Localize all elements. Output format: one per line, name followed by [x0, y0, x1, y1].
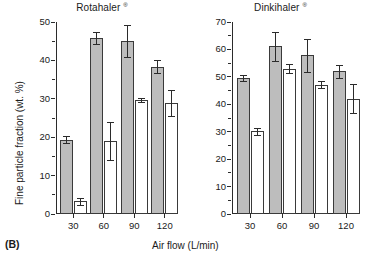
y-tick-label: 20	[39, 131, 50, 142]
y-tick-mark	[51, 137, 55, 138]
error-bar-cap-lower	[254, 135, 261, 136]
error-bar-cap-upper	[304, 39, 311, 40]
error-bar-stem	[127, 25, 128, 57]
y-minor-tick-mark	[228, 200, 231, 201]
error-bar-cap-upper	[240, 75, 247, 76]
x-tick-mark	[314, 214, 315, 218]
bar-rotahaler-90-filled	[121, 41, 134, 214]
bar-rotahaler-60-filled	[90, 38, 103, 214]
error-bar-cap-upper	[286, 64, 293, 65]
y-tick-mark	[227, 214, 231, 215]
bar-rotahaler-90-open	[135, 100, 148, 214]
bar-dinkihaler-90-filled	[301, 55, 314, 214]
y-tick-label: 0	[45, 208, 50, 219]
bar-dinkihaler-30-open	[251, 131, 264, 214]
error-bar-cap-lower	[286, 73, 293, 74]
error-bar-cap-upper	[93, 32, 100, 33]
bar-dinkihaler-90-open	[315, 85, 328, 214]
y-tick-label: 0	[221, 208, 226, 219]
y-axis-line	[56, 22, 57, 214]
error-bar-cap-lower	[240, 81, 247, 82]
error-bar-stem	[339, 65, 340, 78]
error-bar-stem	[110, 122, 111, 160]
panel-title-text: Rotahaler	[76, 2, 123, 13]
y-tick-mark	[227, 22, 231, 23]
y-axis-line	[232, 22, 233, 214]
x-tick-label: 120	[157, 220, 173, 231]
x-tick-label: 60	[98, 220, 109, 231]
error-bar-stem	[157, 60, 158, 74]
error-bar-stem	[275, 32, 276, 61]
bar-rotahaler-120-open	[165, 103, 178, 214]
y-minor-tick-mark	[52, 118, 55, 119]
plot-area-rotahaler: 01020304050306090120	[56, 22, 178, 214]
y-tick-label: 50	[215, 71, 226, 82]
y-minor-tick-mark	[52, 194, 55, 195]
y-tick-mark	[51, 175, 55, 176]
x-tick-mark	[346, 214, 347, 218]
error-bar-cap-lower	[77, 205, 84, 206]
x-tick-label: 30	[68, 220, 79, 231]
y-minor-tick-mark	[228, 145, 231, 146]
y-tick-mark	[51, 22, 55, 23]
plot-area-dinkihaler: 010203040506070306090120	[232, 22, 360, 214]
panel-title-dinkihaler: Dinkihaler ®	[196, 2, 365, 13]
x-tick-mark	[103, 214, 104, 218]
x-tick-label: 30	[245, 220, 256, 231]
y-tick-mark	[227, 104, 231, 105]
error-bar-cap-lower	[168, 116, 175, 117]
y-minor-tick-mark	[228, 118, 231, 119]
bar-dinkihaler-60-filled	[269, 46, 282, 214]
error-bar-cap-lower	[93, 44, 100, 45]
error-bar-cap-upper	[138, 98, 145, 99]
x-tick-label: 60	[277, 220, 288, 231]
error-bar-cap-lower	[124, 57, 131, 58]
chart-panel-dinkihaler: Dinkihaler ®010203040506070306090120	[196, 0, 365, 259]
bar-rotahaler-120-filled	[151, 67, 164, 214]
y-minor-tick-mark	[228, 172, 231, 173]
panel-title-text: Dinkihaler	[254, 2, 302, 13]
y-tick-mark	[227, 76, 231, 77]
y-tick-mark	[227, 49, 231, 50]
x-tick-mark	[134, 214, 135, 218]
y-tick-label: 40	[39, 54, 50, 65]
registered-trademark-icon: ®	[302, 2, 307, 8]
bar-dinkihaler-30-filled	[237, 78, 250, 214]
y-tick-label: 40	[215, 98, 226, 109]
y-tick-mark	[51, 214, 55, 215]
error-bar-cap-upper	[77, 198, 84, 199]
y-minor-tick-mark	[228, 35, 231, 36]
y-tick-label: 30	[39, 93, 50, 104]
y-tick-label: 10	[39, 170, 50, 181]
error-bar-cap-upper	[336, 65, 343, 66]
y-tick-label: 10	[215, 181, 226, 192]
error-bar-cap-lower	[154, 73, 161, 74]
x-tick-mark	[282, 214, 283, 218]
y-minor-tick-mark	[228, 90, 231, 91]
error-bar-cap-upper	[350, 84, 357, 85]
error-bar-cap-upper	[318, 81, 325, 82]
error-bar-stem	[307, 39, 308, 72]
x-tick-mark	[250, 214, 251, 218]
error-bar-stem	[289, 64, 290, 73]
panel-label: (B)	[5, 238, 20, 250]
y-minor-tick-mark	[52, 79, 55, 80]
error-bar-cap-lower	[107, 160, 114, 161]
chart-panel-rotahaler: Rotahaler ®01020304050306090120	[22, 0, 182, 259]
bar-dinkihaler-60-open	[283, 69, 296, 214]
y-tick-mark	[227, 159, 231, 160]
x-tick-label: 120	[338, 220, 354, 231]
registered-trademark-icon: ®	[123, 2, 128, 8]
y-tick-label: 50	[39, 16, 50, 27]
y-tick-label: 20	[215, 153, 226, 164]
y-tick-mark	[51, 98, 55, 99]
y-tick-mark	[51, 60, 55, 61]
y-minor-tick-mark	[52, 156, 55, 157]
figure-panel-b: (B) Fine particle fraction (wt. %) Air f…	[0, 0, 365, 259]
error-bar-cap-lower	[336, 78, 343, 79]
bar-dinkihaler-120-open	[347, 99, 360, 214]
error-bar-cap-upper	[107, 122, 114, 123]
error-bar-cap-lower	[350, 113, 357, 114]
y-minor-tick-mark	[52, 41, 55, 42]
y-tick-label: 70	[215, 16, 226, 27]
